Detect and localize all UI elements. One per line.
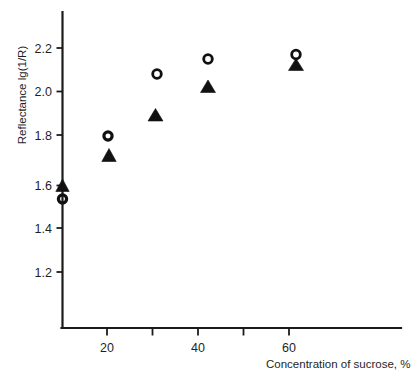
x-tick-label-20: 20 xyxy=(100,341,114,355)
y-tick-label-2.2: 2.2 xyxy=(35,42,52,56)
data-point-triangle-5 xyxy=(289,59,304,71)
data-point-triangle-4 xyxy=(201,80,216,93)
data-point-triangle-2 xyxy=(102,149,116,162)
x-axis-title: Concentration of sucrose, % xyxy=(266,358,410,370)
data-point-circle-5 xyxy=(292,50,301,59)
x-tick-label-40: 40 xyxy=(191,341,205,355)
x-tick-label-60: 60 xyxy=(282,341,296,355)
scatter-plot: 2.2 2.0 1.8 1.6 1.4 1.2 20 40 60 Concent… xyxy=(0,0,412,373)
y-tick-label-1.6: 1.6 xyxy=(35,179,52,193)
y-tick-label-1.4: 1.4 xyxy=(35,222,52,236)
x-axis-ticks xyxy=(107,328,289,336)
chart-figure: 2.2 2.0 1.8 1.6 1.4 1.2 20 40 60 Concent… xyxy=(0,0,412,373)
series-filled-triangle xyxy=(56,59,304,192)
data-point-circle-3 xyxy=(153,70,162,79)
y-tick-label-1.8: 1.8 xyxy=(35,129,52,143)
series-open-circle xyxy=(58,50,300,203)
y-tick-label-2.0: 2.0 xyxy=(35,85,52,99)
y-axis-title: Reflectance lg(1/R) xyxy=(16,46,28,145)
data-point-circle-4 xyxy=(204,55,213,64)
data-point-triangle-3 xyxy=(148,109,163,122)
data-point-circle-2 xyxy=(104,132,112,140)
y-tick-label-1.2: 1.2 xyxy=(35,266,52,280)
